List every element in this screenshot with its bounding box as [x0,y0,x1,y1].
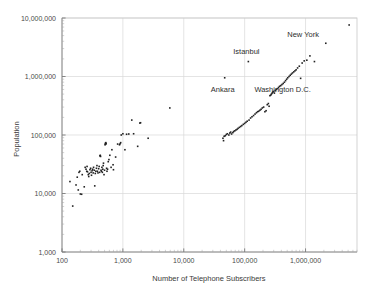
data-point [107,168,109,170]
data-point [115,156,117,158]
data-point [224,77,226,79]
data-point [94,173,96,175]
data-point [101,167,103,169]
data-point [99,172,101,174]
data-point [117,143,119,145]
gridlines-group [62,18,357,252]
data-point [102,168,104,170]
data-point [230,131,232,133]
data-point [103,162,105,164]
x-tick-label: 1,000,000 [290,257,321,264]
y-tick-labels: 1,00010,000100,0001,000,00010,000,000 [21,15,56,256]
data-point [284,81,286,83]
data-point [222,137,224,139]
data-point [94,185,96,187]
annotation-label: Washington D.C. [254,85,310,94]
data-point [231,133,233,135]
data-point [301,62,303,64]
data-point [105,143,107,145]
data-point [254,113,256,115]
scatter-chart-figure: 1001,00010,000100,0001,000,000 1,00010,0… [0,0,367,296]
data-point [306,59,308,61]
data-point [98,168,100,170]
data-point [147,137,149,139]
data-point [69,181,71,183]
data-point [248,61,250,63]
data-point [325,42,327,44]
data-point [97,172,99,174]
data-point [248,119,250,121]
data-point [250,117,252,119]
data-point [297,67,299,69]
data-point [109,154,111,156]
data-point [106,170,108,172]
data-point [92,172,94,174]
data-point [223,140,225,142]
data-point [122,133,124,135]
data-point [251,116,253,118]
data-point [137,146,139,148]
data-point [75,184,77,186]
data-point [72,205,74,207]
annotation-label: Istanbul [233,47,260,56]
data-point [92,168,94,170]
data-point [120,134,122,136]
annotation-label: Ankara [211,85,236,94]
annotation-label: New York [287,30,319,39]
data-point [98,166,100,168]
data-point [128,133,130,135]
data-point [228,134,230,136]
y-tick-label: 10,000,000 [21,15,56,22]
data-point [295,69,297,71]
data-point [87,171,89,173]
data-point [314,61,316,63]
data-point [102,165,104,167]
data-point [113,169,115,171]
data-point [263,106,265,108]
data-point [126,133,128,135]
x-tick-label: 1,000 [114,257,132,264]
data-point [111,149,113,151]
y-tick-label: 10,000 [35,190,57,197]
data-point [299,65,301,67]
data-point [348,24,350,26]
data-point [268,105,270,107]
data-point [84,167,86,169]
chart-canvas: 1001,00010,000100,0001,000,000 1,00010,0… [0,0,367,296]
data-point [108,159,110,161]
minor-ticks-group [62,21,357,252]
data-point [265,110,267,112]
data-point [102,172,104,174]
data-points-group [69,24,350,207]
y-tick-label: 100,000 [31,132,56,139]
data-point [103,174,105,176]
data-point [112,164,114,166]
data-point [88,176,90,178]
data-point [93,169,95,171]
data-point [120,142,122,144]
y-tick-label: 1,000 [38,249,56,256]
data-point [303,60,305,62]
data-point [268,103,270,105]
data-point [93,167,95,169]
data-point [107,161,109,163]
data-point [100,156,102,158]
data-point [91,174,93,176]
x-axis-title: Number of Telephone Subscribers [152,274,266,283]
data-point [76,176,78,178]
point-annotations: New YorkIstanbulAnkaraWashington D.C. [211,30,319,94]
data-point [86,166,88,168]
data-point [83,186,85,188]
x-tick-label: 10,000 [173,257,195,264]
y-axis-title: Population [12,121,21,156]
x-tick-labels: 1001,00010,000100,0001,000,000 [56,257,321,264]
data-point [104,169,106,171]
data-point [285,80,287,82]
data-point [89,169,91,171]
data-point [90,172,92,174]
data-point [169,107,171,109]
data-point [300,78,302,80]
data-point [110,167,112,169]
data-point [227,133,229,135]
data-point [85,168,87,170]
